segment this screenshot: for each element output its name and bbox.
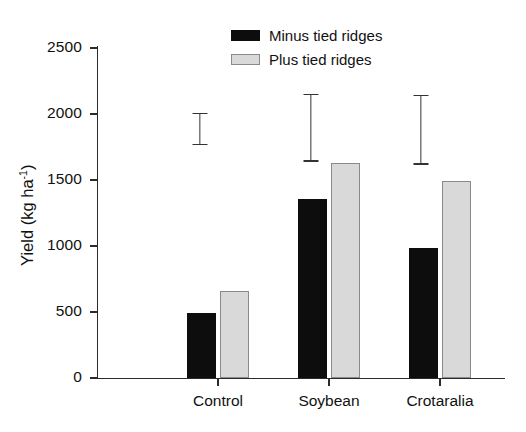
y-tick-1000	[90, 245, 97, 246]
legend-swatch-minus-icon	[231, 30, 260, 41]
error-bar-cap-bottom	[304, 160, 319, 161]
bar-crotaralia-minus	[409, 248, 438, 378]
y-tick-1500	[90, 179, 97, 180]
error-bar-cap-top	[304, 94, 319, 95]
error-bar-stem	[310, 94, 311, 162]
error-bar-control	[192, 113, 208, 145]
error-bar-soybean	[303, 94, 319, 162]
error-bar-cap-top	[414, 95, 429, 96]
y-axis-title-exponent: -1	[17, 170, 29, 179]
error-bar-stem	[420, 95, 421, 165]
bar-control-plus	[220, 291, 249, 378]
bar-chart: 05001000150020002500 Yield (kg ha-1) Con…	[0, 0, 526, 432]
legend-item-minus: Minus tied ridges	[231, 26, 382, 45]
y-axis-line	[97, 46, 98, 379]
y-tick-2500	[90, 47, 97, 48]
legend-swatch-plus-icon	[231, 54, 260, 65]
plot-area: 05001000150020002500 Yield (kg ha-1) Con…	[0, 0, 526, 432]
y-tick-label-2000: 2000	[28, 104, 82, 122]
legend-label-plus: Plus tied ridges	[269, 51, 372, 68]
bar-crotaralia-plus	[442, 181, 471, 378]
legend: Minus tied ridges Plus tied ridges	[231, 26, 382, 74]
x-tick-label-crotaralia: Crotaralia	[380, 392, 500, 410]
y-tick-2000	[90, 113, 97, 114]
y-tick-0	[90, 377, 97, 378]
bar-control-minus	[187, 313, 216, 378]
error-bar-cap-bottom	[414, 163, 429, 164]
bar-soybean-minus	[298, 199, 327, 378]
bar-soybean-plus	[331, 163, 360, 378]
y-axis-title: Yield (kg ha-1)	[17, 125, 38, 305]
error-bar-stem	[199, 113, 200, 145]
x-axis-line	[97, 378, 505, 379]
y-axis-title-base: Yield (kg ha	[18, 179, 36, 266]
legend-label-minus: Minus tied ridges	[269, 27, 382, 44]
error-bar-cap-top	[193, 113, 208, 114]
x-tick-label-soybean: Soybean	[269, 392, 389, 410]
error-bar-crotaralia	[413, 95, 429, 165]
x-tick-soybean	[328, 379, 329, 386]
x-tick-label-control: Control	[158, 392, 278, 410]
legend-item-plus: Plus tied ridges	[231, 50, 382, 69]
error-bar-cap-bottom	[193, 144, 208, 145]
x-tick-control	[217, 379, 218, 386]
y-tick-label-0: 0	[28, 368, 82, 386]
y-tick-label-2500: 2500	[28, 38, 82, 56]
y-axis-title-close: )	[18, 165, 36, 171]
x-tick-crotaralia	[439, 379, 440, 386]
y-tick-500	[90, 311, 97, 312]
